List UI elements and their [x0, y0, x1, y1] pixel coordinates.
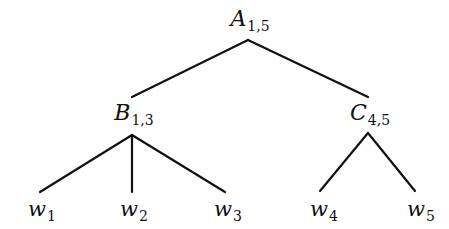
leaf-w5: w5 — [407, 197, 435, 224]
leaf-w1: w1 — [28, 197, 56, 224]
node-b: B1,3 — [114, 100, 153, 128]
edge-b-w1 — [40, 135, 132, 192]
edge-a-b — [132, 40, 248, 97]
edge-b-w3 — [132, 135, 225, 192]
leaf-w3: w3 — [214, 197, 242, 224]
edge-c-w5 — [368, 133, 415, 191]
leaf-w4: w4 — [310, 197, 338, 224]
node-a: A1,5 — [230, 6, 269, 34]
node-c: C4,5 — [350, 100, 390, 128]
leaf-w2: w2 — [120, 197, 148, 224]
tree-diagram: A1,5 B1,3 C4,5 w1 w2 w3 w4 w5 — [0, 0, 449, 229]
edge-c-w4 — [320, 133, 368, 191]
edge-a-c — [248, 40, 368, 97]
